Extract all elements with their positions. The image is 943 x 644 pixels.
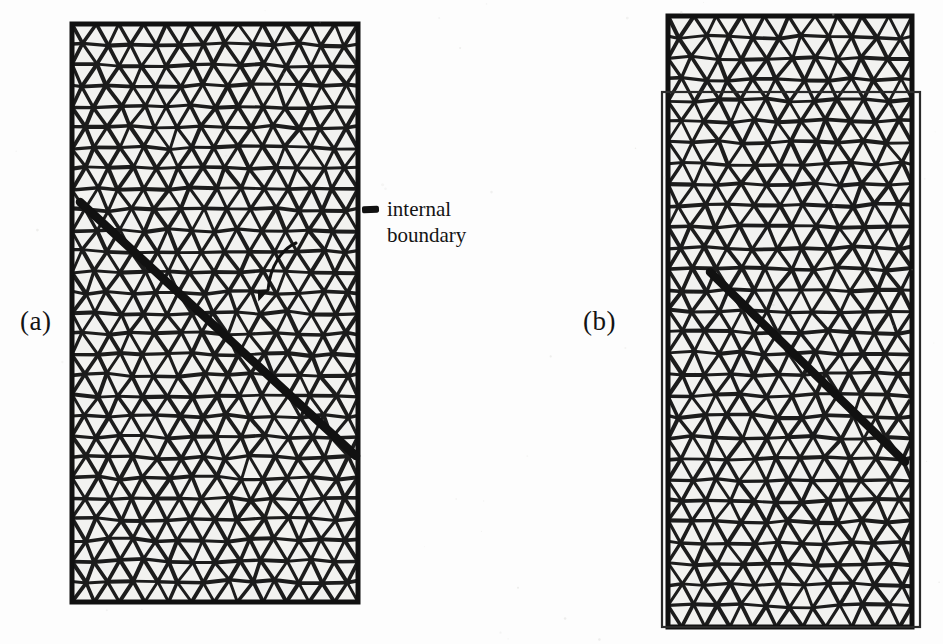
leader-dash-icon: [362, 206, 379, 214]
panel-b-mesh: [662, 16, 920, 627]
annotation-line-2: boundary: [387, 222, 466, 248]
panel-a-mesh: [72, 24, 358, 602]
figure-root: (a) (b) internal boundary: [0, 0, 943, 644]
panel-label-a: (a): [20, 306, 51, 337]
panel-label-b: (b): [583, 306, 616, 337]
mesh-figure-canvas: [0, 0, 943, 644]
annotation-line-1: internal: [387, 196, 451, 222]
